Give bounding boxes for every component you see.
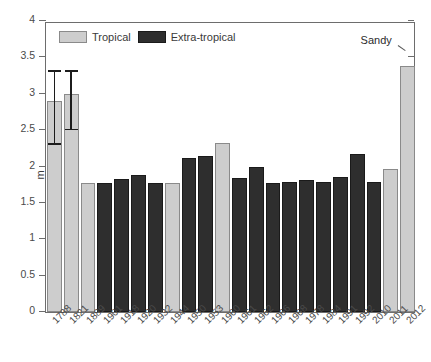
annotation-pointer-sandy xyxy=(397,45,405,51)
bar-1901 xyxy=(97,183,112,312)
y-tick-label-1: 1 xyxy=(29,231,35,243)
bar-1918 xyxy=(114,179,129,312)
y-tick-1.5: 1.5 xyxy=(39,202,46,203)
bar-1950 xyxy=(182,158,197,312)
y-tick-label-4: 4 xyxy=(29,13,35,25)
y-tick-right-3.5 xyxy=(408,56,414,57)
error-bar-line-1821 xyxy=(70,72,72,130)
bar-1962 xyxy=(249,167,264,312)
y-tick-1: 1 xyxy=(39,238,46,239)
bar-chart-figure: m 00.511.522.533.54 Tropical Extra-tropi… xyxy=(0,0,431,362)
error-bar-cap-1821-low xyxy=(65,129,78,131)
bar-1932 xyxy=(148,183,163,312)
annotation-sandy: Sandy xyxy=(361,34,392,46)
y-tick-3.5: 3.5 xyxy=(39,56,46,57)
y-tick-2: 2 xyxy=(39,166,46,167)
legend-label-extra-tropical: Extra-tropical xyxy=(171,31,236,43)
bar-1944 xyxy=(165,183,180,312)
plot-area: m 00.511.522.533.54 Tropical Extra-tropi… xyxy=(45,22,415,313)
bar-1968 xyxy=(282,182,297,312)
y-tick-label-0: 0 xyxy=(29,304,35,316)
y-tick-3: 3 xyxy=(39,93,46,94)
bar-2010 xyxy=(367,182,382,312)
y-tick-label-2: 2 xyxy=(29,159,35,171)
error-bar-cap-1788-high xyxy=(48,70,61,72)
y-tick-label-3: 3 xyxy=(29,86,35,98)
error-bar-cap-1788-low xyxy=(48,143,61,145)
y-tick-label-1.5: 1.5 xyxy=(20,195,35,207)
legend: Tropical Extra-tropical xyxy=(59,31,236,43)
y-tick-0: 0 xyxy=(39,311,46,312)
y-tick-label-3.5: 3.5 xyxy=(20,49,35,61)
legend-entry-extra-tropical: Extra-tropical xyxy=(138,31,236,43)
bar-1889 xyxy=(81,183,96,312)
bar-1920 xyxy=(131,175,146,312)
y-tick-2.5: 2.5 xyxy=(39,129,46,130)
legend-label-tropical: Tropical xyxy=(92,31,131,43)
bar-2012 xyxy=(400,66,415,312)
y-tick-right-4 xyxy=(408,20,414,21)
bar-1978 xyxy=(299,180,314,312)
y-tick-4: 4 xyxy=(39,20,46,21)
bar-1992 xyxy=(350,154,365,312)
y-tick-0.5: 0.5 xyxy=(39,275,46,276)
legend-swatch-extra-tropical-icon xyxy=(138,31,166,43)
bar-1966 xyxy=(266,183,281,312)
y-axis-label: m xyxy=(34,155,46,195)
legend-entry-tropical: Tropical xyxy=(59,31,131,43)
bar-1961 xyxy=(232,178,247,312)
error-bar-cap-1821-high xyxy=(65,70,78,72)
y-tick-label-0.5: 0.5 xyxy=(20,268,35,280)
error-bar-line-1788 xyxy=(54,72,56,145)
bar-1991 xyxy=(333,177,348,312)
bar-2011 xyxy=(383,169,398,312)
bar-1984 xyxy=(316,182,331,312)
bar-1960 xyxy=(215,143,230,313)
bar-1953 xyxy=(198,156,213,312)
y-tick-label-2.5: 2.5 xyxy=(20,122,35,134)
legend-swatch-tropical-icon xyxy=(59,31,87,43)
